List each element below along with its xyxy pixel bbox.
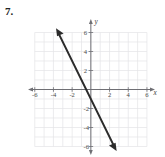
y-tick-label: -4	[84, 124, 90, 131]
y-axis-arrow-down	[89, 150, 93, 155]
y-tick-label: -2	[84, 105, 90, 112]
axes	[28, 19, 155, 155]
x-tick-label: 4	[127, 91, 131, 98]
x-tick-label: 2	[108, 91, 111, 98]
y-tick-label: 2	[84, 67, 87, 74]
x-tick-label: -4	[51, 91, 57, 98]
x-tick-label: -6	[32, 91, 38, 98]
y-tick-label: -6	[84, 143, 90, 150]
x-tick-label: 6	[145, 91, 149, 98]
x-tick-label: -2	[69, 91, 75, 98]
coordinate-graph-figure: -6 -4 -2 2 4 6 6 4 2 -2 -4 -6 y x	[0, 0, 165, 157]
x-axis-label: x	[153, 89, 158, 97]
graph-svg: -6 -4 -2 2 4 6 6 4 2 -2 -4 -6 y x	[0, 0, 165, 157]
y-axis-arrow-up	[89, 19, 93, 24]
y-axis-label: y	[94, 18, 99, 26]
line-arrow-lower-right	[109, 143, 117, 151]
